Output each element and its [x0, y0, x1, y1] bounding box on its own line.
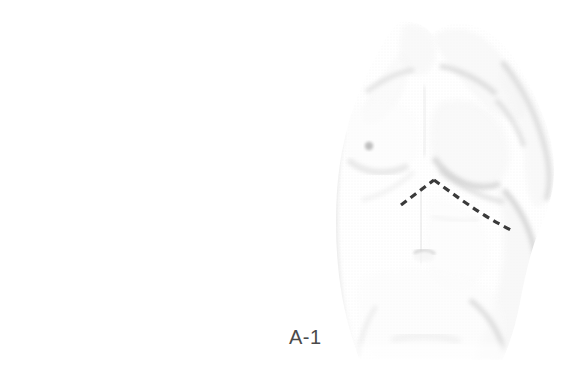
torso-shading-group — [330, 22, 566, 384]
bottom-fade — [330, 344, 566, 384]
nipple-marker — [365, 142, 373, 150]
sternum-line — [424, 86, 426, 156]
figure-container: A-1 — [0, 0, 580, 384]
figure-label: A-1 — [289, 327, 322, 347]
